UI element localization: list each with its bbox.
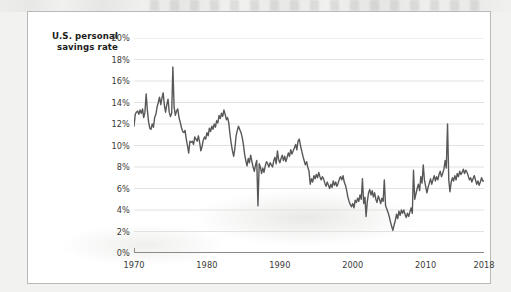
y-axis-tick-label: 14% <box>112 98 131 108</box>
y-axis-tick-label: 2% <box>117 227 130 237</box>
axis-lines <box>134 248 484 253</box>
x-axis-tick-label: 2000 <box>342 260 363 270</box>
y-axis-tick-label: 0% <box>117 248 130 258</box>
x-axis-tick-label: 1980 <box>196 260 217 270</box>
y-axis-tick-label: 18% <box>112 55 131 65</box>
chart-title-line-1: U.S. personal <box>34 31 118 42</box>
page-bleed-through-text <box>150 0 480 11</box>
x-axis-tick-label: 1990 <box>269 260 290 270</box>
y-axis-tick-label: 4% <box>117 205 130 215</box>
y-axis-tick-label: 10% <box>112 141 131 151</box>
x-axis-tick-label: 2018 <box>473 260 494 270</box>
gridlines <box>134 38 484 232</box>
series-line-us-personal-savings-rate <box>134 67 484 230</box>
page-title: U.S. personal savings rate <box>34 31 118 52</box>
plot-area: 0%2%4%6%8%10%12%14%16%18%20% 19701980199… <box>134 38 484 253</box>
y-axis-tick-label: 20% <box>112 33 131 43</box>
chart-title-line-2: savings rate <box>34 42 118 53</box>
y-axis-tick-label: 12% <box>112 119 131 129</box>
y-axis-tick-label: 8% <box>117 162 130 172</box>
y-axis-tick-label: 16% <box>112 76 131 86</box>
x-axis-tick-label: 2010 <box>415 260 436 270</box>
y-axis-tick-label: 6% <box>117 184 130 194</box>
chart-card: U.S. personal savings rate 0%2%4%6%8%10%… <box>27 11 491 284</box>
x-axis-tick-label: 1970 <box>123 260 144 270</box>
savings-rate-line-chart <box>134 38 484 253</box>
